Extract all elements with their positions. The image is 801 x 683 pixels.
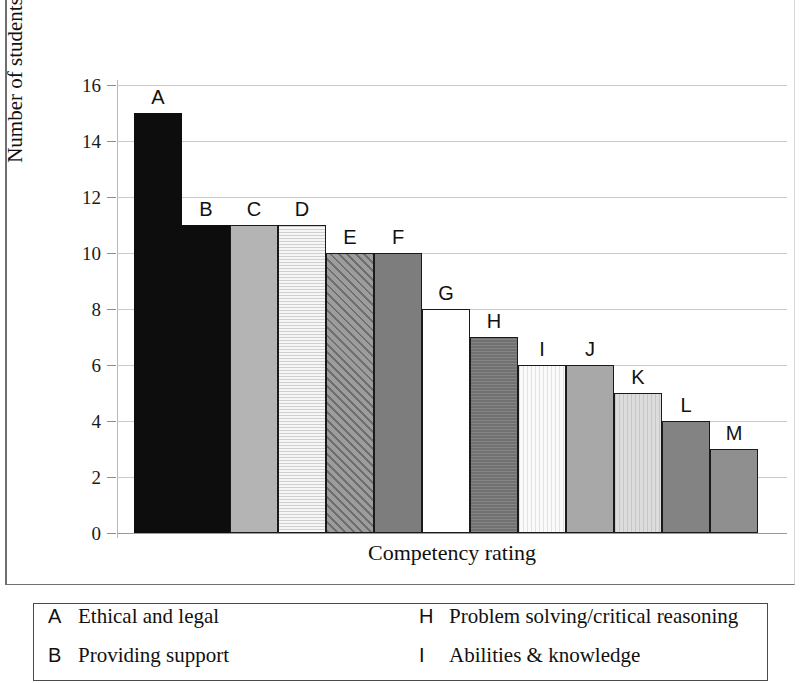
bar-B bbox=[182, 225, 230, 533]
y-tick-mark-8 bbox=[107, 309, 116, 310]
bar-label-F: F bbox=[392, 227, 404, 247]
legend-key-I: I bbox=[419, 644, 449, 667]
bar-label-K: K bbox=[631, 367, 644, 387]
bar-D bbox=[278, 225, 326, 533]
legend-key-H: H bbox=[419, 605, 449, 628]
legend-item-H: HProblem solving/critical reasoning bbox=[419, 604, 768, 643]
legend-item-I: IAbilities & knowledge bbox=[419, 643, 768, 681]
gridline-0 bbox=[117, 533, 787, 534]
legend-column-left: AEthical and legalBProviding support bbox=[48, 604, 413, 680]
bar-label-G: G bbox=[438, 283, 454, 303]
legend-description-I: Abilities & knowledge bbox=[449, 643, 640, 668]
bar-label-B: B bbox=[199, 199, 212, 219]
y-tick-mark-12 bbox=[107, 197, 116, 198]
bar-F bbox=[374, 253, 422, 533]
y-tick-mark-0 bbox=[107, 533, 116, 534]
chart-figure-frame: Number of students 1614121086420 ABCDEFG… bbox=[5, 0, 795, 585]
bar-label-I: I bbox=[539, 339, 545, 359]
bar-I bbox=[518, 365, 566, 533]
y-tick-label-14: 14 bbox=[82, 132, 101, 151]
y-tick-label-16: 16 bbox=[82, 76, 101, 95]
bar-G bbox=[422, 309, 470, 533]
bar-J bbox=[566, 365, 614, 533]
y-tick-label-8: 8 bbox=[92, 300, 102, 319]
y-axis-tick-labels: 1614121086420 bbox=[57, 85, 101, 533]
bar-M bbox=[710, 449, 758, 533]
legend-description-A: Ethical and legal bbox=[78, 604, 219, 629]
legend-item-B: BProviding support bbox=[48, 643, 413, 681]
bars-group: ABCDEFGHIJKLM bbox=[117, 85, 787, 533]
y-tick-mark-2 bbox=[107, 477, 116, 478]
y-tick-label-2: 2 bbox=[92, 468, 102, 487]
y-tick-label-10: 10 bbox=[82, 244, 101, 263]
bar-label-L: L bbox=[680, 395, 691, 415]
bar-label-C: C bbox=[247, 199, 261, 219]
bar-label-H: H bbox=[487, 311, 501, 331]
legend-key-A: A bbox=[48, 605, 78, 628]
y-tick-label-6: 6 bbox=[92, 356, 102, 375]
bar-label-D: D bbox=[295, 199, 309, 219]
y-tick-label-0: 0 bbox=[92, 524, 102, 543]
bar-label-M: M bbox=[726, 423, 743, 443]
bar-label-E: E bbox=[343, 227, 356, 247]
legend-key-B: B bbox=[48, 644, 78, 667]
bar-C bbox=[230, 225, 278, 533]
y-tick-mark-10 bbox=[107, 253, 116, 254]
plot-area: ABCDEFGHIJKLM bbox=[117, 85, 787, 533]
legend-box: AEthical and legalBProviding support HPr… bbox=[33, 603, 768, 681]
bar-L bbox=[662, 421, 710, 533]
bar-label-A: A bbox=[151, 87, 164, 107]
y-tick-mark-14 bbox=[107, 141, 116, 142]
legend-column-right: HProblem solving/critical reasoningIAbil… bbox=[419, 604, 768, 680]
y-tick-mark-4 bbox=[107, 421, 116, 422]
bar-K bbox=[614, 393, 662, 533]
y-tick-label-12: 12 bbox=[82, 188, 101, 207]
y-tick-label-4: 4 bbox=[92, 412, 102, 431]
bar-label-J: J bbox=[585, 339, 595, 359]
y-tick-mark-16 bbox=[107, 85, 116, 86]
bar-E bbox=[326, 253, 374, 533]
x-axis-title: Competency rating bbox=[117, 540, 787, 566]
bar-H bbox=[470, 337, 518, 533]
legend-description-B: Providing support bbox=[78, 643, 229, 668]
y-tick-mark-6 bbox=[107, 365, 116, 366]
bar-A bbox=[134, 113, 182, 533]
y-axis-title: Number of students bbox=[3, 0, 28, 200]
legend-description-H: Problem solving/critical reasoning bbox=[449, 604, 738, 629]
legend-item-A: AEthical and legal bbox=[48, 604, 413, 643]
